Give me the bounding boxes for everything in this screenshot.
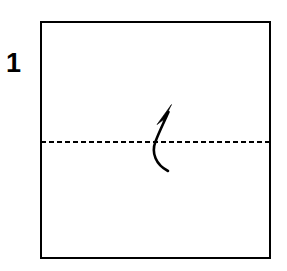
paper-square [40,21,271,259]
origami-step-figure: 1 [0,0,287,271]
step-number-label: 1 [6,49,32,77]
